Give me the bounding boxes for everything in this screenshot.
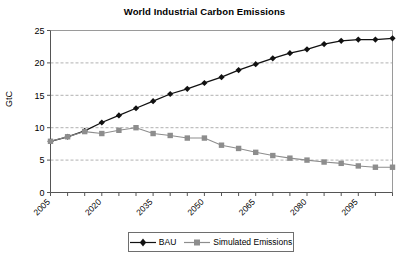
- data-point-marker: [184, 86, 190, 92]
- y-tick-label: 5: [39, 155, 44, 165]
- y-tick-label: 15: [34, 91, 44, 101]
- y-tick-label: 10: [34, 123, 44, 133]
- data-point-marker: [373, 165, 378, 170]
- data-point-marker: [304, 46, 310, 52]
- data-point-marker: [270, 55, 276, 61]
- x-tick-label: 2065: [237, 197, 258, 218]
- data-point-marker: [236, 67, 242, 73]
- data-point-marker: [82, 129, 87, 134]
- data-point-marker: [167, 91, 173, 97]
- data-point-marker: [99, 131, 104, 136]
- data-point-marker: [372, 36, 378, 42]
- data-point-marker: [133, 125, 138, 130]
- plot-area: 05101520252005202020352050206520802095: [0, 0, 409, 260]
- data-point-marker: [253, 61, 259, 67]
- y-tick-label: 20: [34, 58, 44, 68]
- data-point-marker: [185, 135, 190, 140]
- legend-label-simulated-emissions: Simulated Emissions: [213, 237, 292, 247]
- x-tick-label: 2050: [185, 197, 206, 218]
- data-point-marker: [287, 50, 293, 56]
- x-tick-label: 2080: [288, 197, 309, 218]
- data-point-marker: [253, 150, 258, 155]
- data-point-marker: [355, 36, 361, 42]
- y-tick-label: 0: [39, 188, 44, 198]
- legend-label-bau: BAU: [159, 237, 176, 247]
- chart-legend: BAU Simulated Emissions: [128, 232, 294, 252]
- data-point-marker: [270, 153, 275, 158]
- legend-entry-simulated-emissions: Simulated Emissions: [184, 237, 292, 248]
- data-point-marker: [150, 98, 156, 104]
- x-tick-label: 2020: [83, 197, 104, 218]
- chart-container: World Industrial Carbon Emissions GtC 05…: [0, 0, 409, 260]
- y-tick-label: 25: [34, 26, 44, 36]
- x-tick-label: 2095: [339, 197, 360, 218]
- data-point-marker: [236, 146, 241, 151]
- data-point-marker: [339, 161, 344, 166]
- bau-line-marker-icon: [130, 237, 156, 248]
- data-point-marker: [116, 112, 122, 118]
- data-point-marker: [321, 159, 326, 164]
- data-point-marker: [133, 105, 139, 111]
- legend-entry-bau: BAU: [130, 237, 176, 248]
- data-point-marker: [168, 133, 173, 138]
- data-point-marker: [390, 165, 395, 170]
- data-point-marker: [218, 74, 224, 80]
- data-point-marker: [219, 142, 224, 147]
- data-point-marker: [48, 139, 53, 144]
- data-point-marker: [389, 35, 395, 41]
- data-point-marker: [287, 155, 292, 160]
- data-point-marker: [116, 128, 121, 133]
- data-point-marker: [150, 131, 155, 136]
- data-point-marker: [321, 41, 327, 47]
- series-line-bau: [51, 38, 393, 141]
- x-tick-label: 2005: [31, 197, 52, 218]
- data-point-marker: [202, 135, 207, 140]
- data-point-marker: [99, 119, 105, 125]
- data-point-marker: [356, 163, 361, 168]
- data-point-marker: [338, 38, 344, 44]
- simulated-line-marker-icon: [184, 237, 210, 248]
- data-point-marker: [65, 134, 70, 139]
- data-point-marker: [201, 80, 207, 86]
- data-point-marker: [304, 157, 309, 162]
- x-tick-label: 2035: [134, 197, 155, 218]
